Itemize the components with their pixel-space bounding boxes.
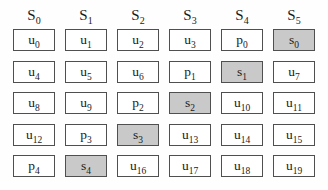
cell-u7: u7 (273, 61, 315, 83)
cell-letter: u (184, 32, 191, 47)
cell-subscript: 13 (189, 134, 199, 144)
header-subscript: 3 (192, 15, 197, 26)
cell-letter: u (80, 64, 87, 79)
header-letter: S (27, 7, 35, 23)
header-subscript: 5 (296, 15, 301, 26)
cell-u12: u12 (13, 124, 55, 146)
cell-subscript: 4 (86, 166, 91, 176)
header-subscript: 1 (88, 15, 93, 26)
column-headers-row: S0 S1 S2 S3 S4 S5 (13, 4, 315, 26)
cell-s1: s1 (221, 61, 263, 83)
column-header-s1: S1 (65, 4, 107, 26)
block-grid: u0 u1 u2 u3 p0 s0 u4 u5 u6 p1 s1 u7 u8 u… (13, 29, 315, 177)
cell-s2: s2 (169, 92, 211, 114)
cell-subscript: 1 (87, 40, 92, 50)
cell-subscript: 1 (191, 71, 196, 81)
cell-u2: u2 (117, 29, 159, 51)
cell-subscript: 5 (87, 71, 92, 81)
cell-u1: u1 (65, 29, 107, 51)
cell-letter: u (286, 158, 293, 173)
cell-letter: u (28, 64, 35, 79)
cell-subscript: 4 (35, 166, 40, 176)
cell-u10: u10 (221, 92, 263, 114)
cell-subscript: 3 (191, 40, 196, 50)
cell-subscript: 2 (190, 103, 195, 113)
cell-subscript: 0 (294, 40, 299, 50)
cell-subscript: 18 (241, 166, 251, 176)
cell-subscript: 0 (35, 40, 40, 50)
cell-letter: u (132, 64, 139, 79)
cell-s4: s4 (65, 155, 107, 177)
cell-subscript: 2 (139, 103, 144, 113)
cell-letter: u (130, 158, 137, 173)
cell-letter: u (286, 127, 293, 142)
cell-letter: u (28, 32, 35, 47)
cell-u18: u18 (221, 155, 263, 177)
cell-letter: p (236, 32, 243, 47)
cell-letter: p (132, 95, 139, 110)
cell-u9: u9 (65, 92, 107, 114)
cell-subscript: 2 (139, 40, 144, 50)
cell-s3: s3 (117, 124, 159, 146)
header-subscript: 4 (244, 15, 249, 26)
cell-letter: u (234, 127, 241, 142)
header-letter: S (183, 7, 191, 23)
cell-p2: p2 (117, 92, 159, 114)
cell-u6: u6 (117, 61, 159, 83)
cell-subscript: 4 (35, 71, 40, 81)
cell-subscript: 14 (241, 134, 251, 144)
cell-subscript: 10 (241, 103, 251, 113)
cell-u14: u14 (221, 124, 263, 146)
header-subscript: 0 (36, 15, 41, 26)
cell-u0: u0 (13, 29, 55, 51)
cell-p3: p3 (65, 124, 107, 146)
cell-letter: p (80, 127, 87, 142)
cell-subscript: 11 (293, 103, 302, 113)
cell-letter: u (182, 127, 189, 142)
cell-letter: u (80, 95, 87, 110)
cell-u4: u4 (13, 61, 55, 83)
cell-letter: u (28, 95, 35, 110)
cell-subscript: 3 (87, 134, 92, 144)
header-subscript: 2 (140, 15, 145, 26)
cell-s0: s0 (273, 29, 315, 51)
cell-u5: u5 (65, 61, 107, 83)
cell-letter: u (286, 95, 293, 110)
cell-letter: u (234, 95, 241, 110)
cell-u15: u15 (273, 124, 315, 146)
cell-letter: p (184, 64, 191, 79)
cell-subscript: 17 (189, 166, 199, 176)
cell-subscript: 6 (139, 71, 144, 81)
header-letter: S (235, 7, 243, 23)
cell-subscript: 19 (293, 166, 303, 176)
cell-subscript: 12 (33, 134, 43, 144)
cell-letter: u (132, 32, 139, 47)
cell-letter: u (182, 158, 189, 173)
cell-letter: u (26, 127, 33, 142)
cell-letter: u (80, 32, 87, 47)
cell-subscript: 16 (137, 166, 147, 176)
cell-u13: u13 (169, 124, 211, 146)
cell-u19: u19 (273, 155, 315, 177)
column-header-s3: S3 (169, 4, 211, 26)
cell-p4: p4 (13, 155, 55, 177)
column-header-s0: S0 (13, 4, 55, 26)
cell-subscript: 8 (35, 103, 40, 113)
header-letter: S (79, 7, 87, 23)
cell-u3: u3 (169, 29, 211, 51)
header-letter: S (131, 7, 139, 23)
cell-p0: p0 (221, 29, 263, 51)
cell-u17: u17 (169, 155, 211, 177)
header-letter: S (287, 7, 295, 23)
cell-u16: u16 (117, 155, 159, 177)
cell-subscript: 15 (293, 134, 303, 144)
cell-u11: u11 (273, 92, 315, 114)
cell-letter: u (234, 158, 241, 173)
column-header-s4: S4 (221, 4, 263, 26)
cell-u8: u8 (13, 92, 55, 114)
cell-subscript: 9 (87, 103, 92, 113)
cell-letter: u (288, 64, 295, 79)
cell-subscript: 3 (138, 134, 143, 144)
cell-subscript: 7 (295, 71, 300, 81)
cell-subscript: 1 (242, 71, 247, 81)
